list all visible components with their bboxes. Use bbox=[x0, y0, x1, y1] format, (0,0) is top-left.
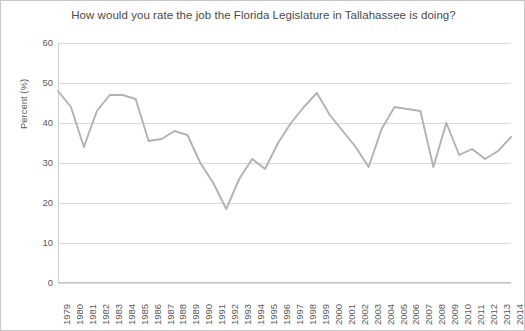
y-axis-tick-labels: 0102030405060 bbox=[27, 43, 53, 283]
x-tick-label-1983: 1983 bbox=[114, 304, 124, 325]
chart-title: How would you rate the job the Florida L… bbox=[1, 9, 525, 21]
plot-area bbox=[58, 43, 511, 283]
y-tick-label-40: 40 bbox=[29, 118, 53, 128]
series-polyline bbox=[58, 91, 511, 209]
y-tick-label-60: 60 bbox=[29, 38, 53, 48]
y-tick-label-10: 10 bbox=[29, 238, 53, 248]
x-tick-label-2002: 2002 bbox=[360, 304, 370, 325]
y-tick-label-30: 30 bbox=[29, 158, 53, 168]
x-tick-label-1981: 1981 bbox=[88, 304, 98, 325]
x-tick-label-1994: 1994 bbox=[256, 304, 266, 325]
x-tick-label-1984: 1984 bbox=[127, 304, 137, 325]
x-tick-label-1989: 1989 bbox=[191, 304, 201, 325]
x-tick-label-2004: 2004 bbox=[386, 304, 396, 325]
x-tick-label-2009: 2009 bbox=[450, 304, 460, 325]
x-tick-label-1992: 1992 bbox=[230, 304, 240, 325]
y-tick-label-50: 50 bbox=[29, 78, 53, 88]
x-tick-label-1979: 1979 bbox=[62, 304, 72, 325]
x-tick-label-2003: 2003 bbox=[373, 304, 383, 325]
x-tick-label-2000: 2000 bbox=[334, 304, 344, 325]
x-tick-label-2005: 2005 bbox=[399, 304, 409, 325]
x-tick-label-2014: 2014 bbox=[515, 304, 525, 325]
x-tick-label-2013: 2013 bbox=[502, 304, 512, 325]
x-tick-label-1982: 1982 bbox=[101, 304, 111, 325]
x-tick-label-1999: 1999 bbox=[321, 304, 331, 325]
x-tick-label-2011: 2011 bbox=[476, 305, 486, 325]
x-tick-label-1987: 1987 bbox=[166, 304, 176, 325]
x-tick-label-2001: 2001 bbox=[347, 304, 357, 325]
x-tick-label-1988: 1988 bbox=[178, 304, 188, 325]
y-tick-label-0: 0 bbox=[29, 278, 53, 288]
data-series-line bbox=[58, 43, 511, 283]
x-tick-label-2006: 2006 bbox=[411, 304, 421, 325]
x-tick-label-2012: 2012 bbox=[489, 304, 499, 325]
x-tick-label-1985: 1985 bbox=[140, 304, 150, 325]
x-tick-label-1990: 1990 bbox=[204, 304, 214, 325]
x-tick-label-2007: 2007 bbox=[424, 304, 434, 325]
x-tick-label-1995: 1995 bbox=[269, 304, 279, 325]
x-tick-label-1980: 1980 bbox=[75, 304, 85, 325]
x-tick-label-1997: 1997 bbox=[295, 304, 305, 325]
x-tick-label-1993: 1993 bbox=[243, 304, 253, 325]
chart-container: How would you rate the job the Florida L… bbox=[0, 0, 525, 331]
x-tick-label-1986: 1986 bbox=[153, 304, 163, 325]
y-tick-label-20: 20 bbox=[29, 198, 53, 208]
gridline-0 bbox=[58, 283, 511, 284]
x-axis-tick-labels: 1979198019811982198319841985198619871988… bbox=[58, 285, 511, 329]
x-tick-label-2008: 2008 bbox=[437, 304, 447, 325]
x-tick-label-1991: 1991 bbox=[217, 304, 227, 325]
x-tick-label-1998: 1998 bbox=[308, 304, 318, 325]
x-tick-label-1996: 1996 bbox=[282, 304, 292, 325]
x-tick-label-2010: 2010 bbox=[463, 304, 473, 325]
